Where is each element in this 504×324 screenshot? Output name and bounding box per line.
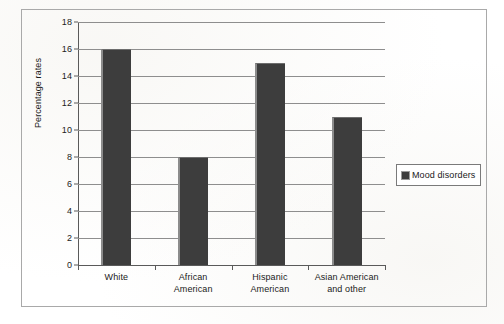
legend-entry-label: Mood disorders bbox=[412, 170, 475, 180]
x-label-african-american: AfricanAmerican bbox=[155, 272, 232, 295]
y-tick-label-0: 0 bbox=[32, 260, 72, 270]
gridline-18 bbox=[78, 22, 385, 23]
x-tickmark-0 bbox=[78, 265, 79, 270]
y-tickmark-6 bbox=[74, 184, 78, 185]
bar-african-american[interactable] bbox=[178, 157, 208, 265]
bar-white[interactable] bbox=[101, 49, 131, 265]
y-tick-label-10: 10 bbox=[32, 125, 72, 135]
y-tick-label-6: 6 bbox=[32, 179, 72, 189]
plot-area bbox=[78, 22, 385, 265]
bar-asian-american-and-other[interactable] bbox=[332, 117, 362, 266]
y-tickmark-2 bbox=[74, 238, 78, 239]
x-label-white: White bbox=[78, 272, 155, 284]
mood-disorders-swatch bbox=[401, 171, 410, 180]
y-tick-label-14: 14 bbox=[32, 71, 72, 81]
y-tick-label-2: 2 bbox=[32, 233, 72, 243]
y-tickmark-18 bbox=[74, 22, 78, 23]
y-tick-label-12: 12 bbox=[32, 98, 72, 108]
y-tickmark-10 bbox=[74, 130, 78, 131]
bar-hispanic-american[interactable] bbox=[255, 63, 285, 266]
y-tick-label-4: 4 bbox=[32, 206, 72, 216]
y-tick-label-18: 18 bbox=[32, 17, 72, 27]
y-tick-label-8: 8 bbox=[32, 152, 72, 162]
x-tickmark-3 bbox=[308, 265, 309, 270]
y-tickmark-8 bbox=[74, 157, 78, 158]
y-tickmark-16 bbox=[74, 49, 78, 50]
bar-chart-figure: Percentage rates 024681012141618 WhiteAf… bbox=[0, 0, 504, 324]
x-label-asian-american-and-other: Asian Americanand other bbox=[308, 272, 385, 295]
y-tickmark-4 bbox=[74, 211, 78, 212]
x-tickmark-4 bbox=[385, 265, 386, 270]
x-label-hispanic-american: HispanicAmerican bbox=[232, 272, 309, 295]
y-tickmark-12 bbox=[74, 103, 78, 104]
chart-legend[interactable]: Mood disorders bbox=[396, 164, 481, 186]
x-axis-category-labels: WhiteAfricanAmericanHispanicAmericanAsia… bbox=[78, 272, 385, 306]
x-tickmark-1 bbox=[155, 265, 156, 270]
y-tickmark-14 bbox=[74, 76, 78, 77]
x-tickmark-2 bbox=[232, 265, 233, 270]
y-tick-label-16: 16 bbox=[32, 44, 72, 54]
y-axis-tick-labels: 024681012141618 bbox=[26, 22, 72, 265]
